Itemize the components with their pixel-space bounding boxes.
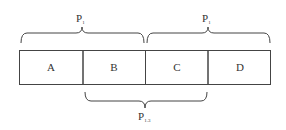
brace-bottom [85,92,207,108]
cell-b-label: B [110,61,117,73]
brace-top-right [147,27,270,43]
cell-d-label: D [236,61,244,73]
cells-row [20,51,271,85]
cell-a-label: A [47,61,55,73]
brace-bottom-label: P1.3 [138,110,151,123]
brace-top-left-label: P1 [76,12,85,25]
segment-diagram: A B C D P1 P1 P1.3 [0,0,286,130]
cell-c-label: C [173,61,180,73]
brace-top-right-label: P1 [202,12,211,25]
brace-top-left [21,27,144,43]
